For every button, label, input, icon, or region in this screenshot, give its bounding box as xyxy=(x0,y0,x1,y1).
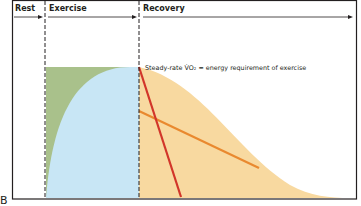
oxygen-recovery-diagram: Rest Exercise Recovery Steady-rate V̇O₂ … xyxy=(0,0,361,206)
phase-label-exercise: Exercise xyxy=(49,4,87,13)
phase-label-recovery: Recovery xyxy=(143,4,185,13)
phase-label-rest: Rest xyxy=(15,4,35,13)
recovery-arrow xyxy=(143,15,353,19)
rest-arrow xyxy=(14,15,43,19)
steady-rate-annotation: Steady-rate V̇O₂ = energy requirement of… xyxy=(145,64,306,72)
panel-label: B xyxy=(0,194,8,206)
recovery-oxygen-area xyxy=(139,67,350,198)
exercise-arrow xyxy=(48,15,137,19)
